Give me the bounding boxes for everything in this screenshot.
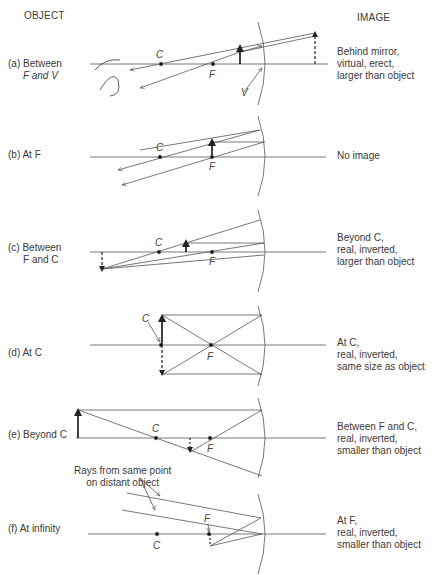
point-C-a: C: [156, 49, 164, 60]
point-F-c: F: [209, 256, 216, 267]
point-F-a: F: [209, 69, 216, 80]
point-C-e: C: [152, 423, 160, 434]
point-F-f: F: [204, 513, 211, 524]
point-C-f: C: [153, 540, 161, 551]
point-V-a: V: [241, 87, 249, 98]
diagram-f: [88, 478, 326, 574]
diagram-e: [76, 398, 326, 478]
point-C-b: C: [156, 142, 164, 153]
point-F-d: F: [207, 351, 214, 362]
diagram-a: [90, 22, 328, 105]
point-C-d: C: [142, 313, 150, 324]
point-F-e: F: [207, 443, 214, 454]
ray-diagrams: C F V C F C: [0, 0, 440, 575]
diagram-d: [90, 306, 326, 386]
point-F-b: F: [209, 161, 216, 172]
point-C-c: C: [155, 237, 163, 248]
diagram-b: [90, 116, 326, 196]
diagram-c: [90, 210, 326, 292]
